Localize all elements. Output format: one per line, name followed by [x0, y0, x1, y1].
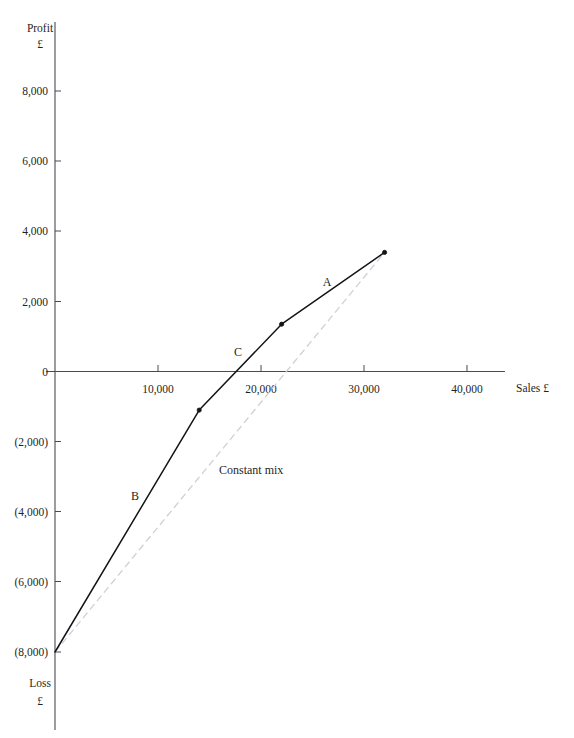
y-axis-title-loss-unit: £ [37, 695, 43, 707]
data-point-marker [197, 408, 201, 412]
x-tick-label: 10,000 [142, 383, 174, 396]
x-tick-label: 40,000 [451, 383, 483, 396]
y-axis-tick-labels: 8,000 6,000 4,000 2,000 0 (2,000) (4,000… [14, 85, 48, 659]
y-axis-title-profit: Profit [27, 22, 54, 34]
y-tick-label: (4,000) [14, 506, 48, 519]
y-tick-label: (8,000) [14, 646, 48, 659]
x-tick-label: 30,000 [348, 383, 380, 396]
annotation-label-a: A [323, 275, 332, 289]
data-point-marker [280, 322, 284, 326]
annotation-label-b: B [131, 489, 139, 503]
annotation-label-constant-mix: Constant mix [219, 463, 283, 477]
y-tick-label: 0 [42, 366, 48, 378]
y-axis-title-loss: Loss [29, 677, 51, 689]
chart-figure: 8,000 6,000 4,000 2,000 0 (2,000) (4,000… [0, 0, 574, 738]
y-tick-label: 2,000 [22, 296, 48, 309]
x-tick-label: 20,000 [245, 383, 277, 396]
x-axis-tick-labels: 10,000 20,000 30,000 40,000 [142, 383, 483, 396]
y-tick-label: 4,000 [22, 225, 48, 238]
y-tick-label: (2,000) [14, 436, 48, 449]
y-axis-title-profit-unit: £ [37, 38, 43, 50]
profit-loss-sales-chart: 8,000 6,000 4,000 2,000 0 (2,000) (4,000… [0, 0, 574, 738]
y-tick-label: 6,000 [22, 155, 48, 168]
data-point-marker [383, 250, 387, 254]
y-tick-label: 8,000 [22, 85, 48, 98]
y-tick-label: (6,000) [14, 576, 48, 589]
x-axis-ticks [158, 365, 467, 372]
annotation-label-c: C [234, 345, 242, 359]
x-axis-title: Sales £ [516, 382, 549, 394]
series-constant-mix-line [55, 252, 385, 652]
